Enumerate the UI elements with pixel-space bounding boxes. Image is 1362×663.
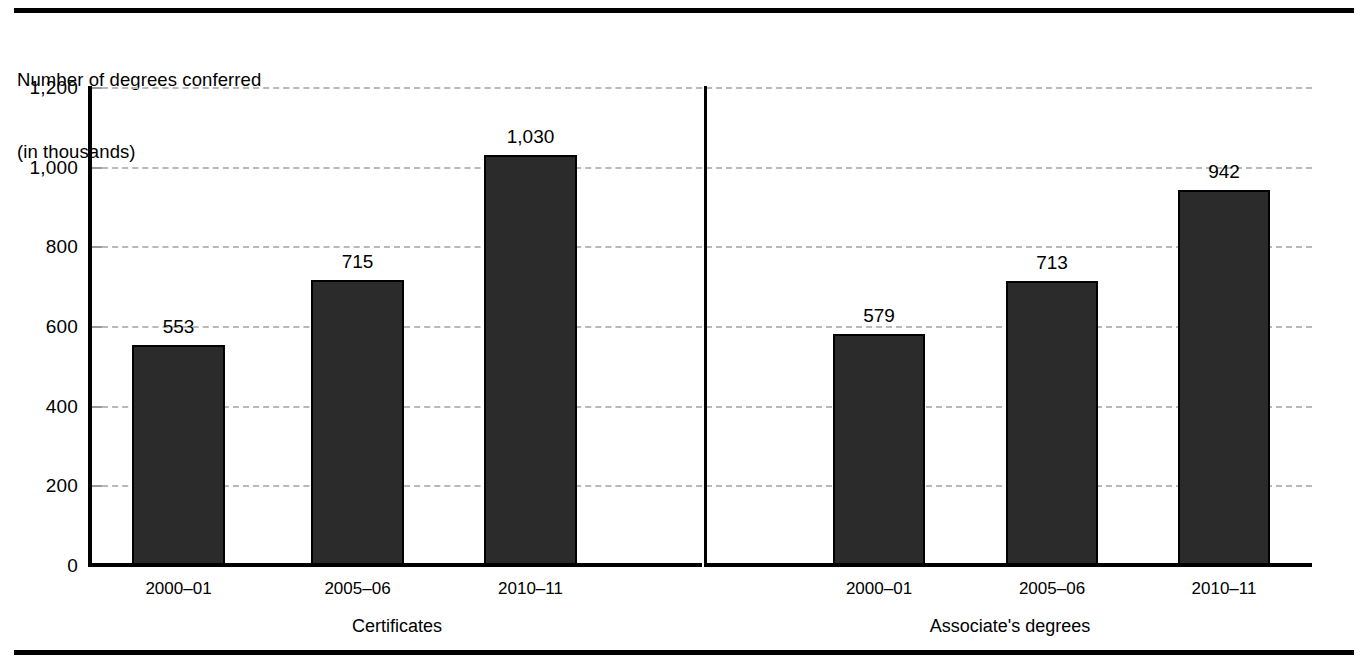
bar [833, 334, 925, 565]
chart-figure: Number of degrees conferred (in thousand… [0, 0, 1362, 663]
bar-value-label: 713 [976, 253, 1128, 272]
y-tick-label: 800 [0, 237, 78, 256]
y-tick-label: 400 [0, 397, 78, 416]
bar [484, 155, 577, 565]
y-tick-label: 600 [0, 317, 78, 336]
bar-value-label: 715 [281, 252, 434, 271]
panel-divider [704, 86, 707, 567]
y-axis-line [88, 86, 92, 567]
gridline [92, 167, 702, 169]
bar-value-label: 942 [1148, 162, 1300, 181]
x-tick-label: 2000–01 [92, 580, 265, 597]
y-tick-label: 1,000 [0, 158, 78, 177]
plot-area: 02004006008001,0001,200 5537151,03057971… [0, 0, 1362, 663]
bar-value-label: 1,030 [454, 127, 607, 146]
y-tick-label: 0 [0, 556, 78, 575]
bar [1006, 281, 1098, 565]
bar [1178, 190, 1270, 565]
x-tick-label: 2000–01 [793, 580, 965, 597]
gridline [92, 246, 702, 248]
bar-value-label: 553 [102, 317, 255, 336]
gridline [706, 87, 1312, 89]
bar-value-label: 579 [803, 306, 955, 325]
x-tick-label: 2005–06 [271, 580, 444, 597]
x-tick-label: 2010–11 [1138, 580, 1310, 597]
y-tick-label: 1,200 [0, 78, 78, 97]
y-tick-label: 200 [0, 476, 78, 495]
panel-group-label: Associate's degrees [810, 617, 1210, 635]
panel-group-label: Certificates [197, 617, 597, 635]
bar [132, 345, 225, 565]
bar [311, 280, 404, 565]
x-tick-label: 2005–06 [966, 580, 1138, 597]
gridline [92, 87, 702, 89]
x-tick-label: 2010–11 [444, 580, 617, 597]
